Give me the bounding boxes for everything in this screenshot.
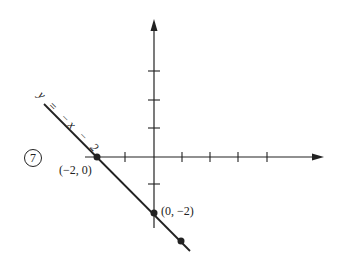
point-label-neg2-0: (−2, 0)	[59, 163, 92, 178]
point-1-neg3	[178, 238, 185, 245]
problem-number: 7	[24, 149, 42, 167]
point-label-0-neg2: (0, −2)	[161, 204, 194, 219]
y-axis-arrow-icon	[151, 19, 158, 31]
coordinate-plot	[0, 0, 340, 271]
x-axis-arrow-icon	[312, 154, 324, 161]
point-0-neg2	[151, 210, 158, 217]
